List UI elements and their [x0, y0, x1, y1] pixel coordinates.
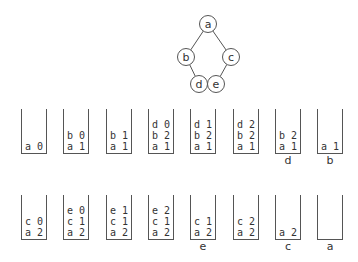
svg-text:c: c: [228, 51, 234, 64]
tree-edge-a-c: [213, 31, 226, 50]
visited-node-caption: c: [275, 240, 301, 253]
stack-frame: b 2: [152, 130, 170, 141]
stack-frame: e 2: [152, 205, 170, 216]
visited-node-caption: d: [275, 154, 301, 167]
call-stack: a 2: [275, 195, 301, 240]
call-stack: a 0: [21, 109, 47, 154]
binary-tree: abcde: [0, 0, 358, 100]
visited-node-caption: b: [317, 154, 343, 167]
call-stack: c 2a 2: [233, 195, 259, 240]
call-stack: e 0c 1a 2: [63, 195, 89, 240]
stack-frame: d 2: [237, 119, 255, 130]
call-stack: a 1: [317, 109, 343, 154]
call-stack: c 0a 2: [21, 195, 47, 240]
svg-text:b: b: [183, 51, 190, 64]
call-stack: e 1c 1a 2: [106, 195, 132, 240]
stack-frame: b 1: [110, 130, 128, 141]
stack-frame: a 2: [152, 227, 170, 238]
stack-frame: e 1: [110, 205, 128, 216]
call-stack: d 2b 2a 1: [233, 109, 259, 154]
visited-node-caption: a: [317, 240, 343, 253]
stack-frame: d 1: [194, 119, 212, 130]
call-stack: b 0a 1: [63, 109, 89, 154]
stack-frame: c 1: [67, 216, 85, 227]
stack-frame: a 1: [152, 141, 170, 152]
stack-frame: a 1: [321, 141, 339, 152]
stack-frame: c 1: [194, 216, 212, 227]
tree-edge-a-b: [191, 31, 204, 50]
svg-text:a: a: [205, 18, 212, 31]
stack-frame: c 1: [152, 216, 170, 227]
tree-node-b: b: [178, 49, 195, 66]
stack-frame: a 1: [110, 141, 128, 152]
tree-edge-b-d: [190, 65, 196, 77]
tree-node-a: a: [200, 16, 217, 33]
tree-edge-c-e: [220, 64, 227, 76]
stack-frame: b 0: [67, 130, 85, 141]
call-stack: b 1a 1: [106, 109, 132, 154]
call-stack: c 1a 2: [190, 195, 216, 240]
stack-frame: b 2: [237, 130, 255, 141]
stack-frame: c 0: [25, 216, 43, 227]
visited-node-caption: e: [190, 240, 216, 253]
stack-frame: a 1: [67, 141, 85, 152]
stack-frame: a 1: [194, 141, 212, 152]
stack-frame: a 1: [237, 141, 255, 152]
stack-frame: b 2: [279, 130, 297, 141]
stack-frame: a 2: [279, 227, 297, 238]
tree-node-c: c: [223, 49, 240, 66]
call-stack: [317, 195, 343, 240]
call-stack: b 2a 1: [275, 109, 301, 154]
stack-frame: a 1: [279, 141, 297, 152]
svg-text:e: e: [213, 78, 220, 91]
stack-frame: a 2: [67, 227, 85, 238]
call-stack: d 1b 2a 1: [190, 109, 216, 154]
stack-frame: a 2: [110, 227, 128, 238]
stack-frame: a 0: [25, 141, 43, 152]
tree-node-d: d: [191, 76, 208, 93]
stack-frame: a 2: [237, 227, 255, 238]
stack-frame: b 2: [194, 130, 212, 141]
stack-frame: a 2: [25, 227, 43, 238]
stack-frame: e 0: [67, 205, 85, 216]
tree-node-e: e: [208, 76, 225, 93]
stack-frame: c 2: [237, 216, 255, 227]
stack-frame: a 2: [194, 227, 212, 238]
call-stack: d 0b 2a 1: [148, 109, 174, 154]
stack-frame: c 1: [110, 216, 128, 227]
svg-text:d: d: [196, 78, 203, 91]
stack-frame: d 0: [152, 119, 170, 130]
call-stack: e 2c 1a 2: [148, 195, 174, 240]
